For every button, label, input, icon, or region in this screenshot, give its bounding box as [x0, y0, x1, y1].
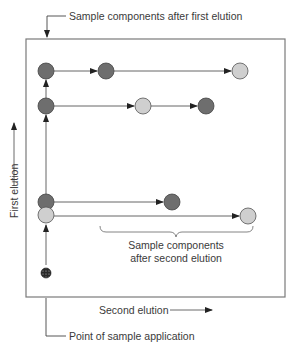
application-point: [41, 268, 51, 278]
bracket: [100, 226, 253, 237]
bracket-label-line1: Sample components: [106, 239, 246, 251]
top-callout-label: Sample components after first elution: [69, 10, 242, 22]
x-axis-label: Second elution: [99, 304, 168, 316]
second-elution-paths: [54, 71, 239, 216]
spot-dark: [38, 98, 54, 114]
spot-light: [135, 98, 151, 114]
spot-light: [240, 208, 256, 224]
bracket-label-line2: after second elution: [106, 252, 246, 264]
y-axis-label: First elution: [8, 164, 20, 218]
top-callout-leader: [44, 16, 66, 38]
diagram-canvas: [0, 0, 294, 350]
spot-dark: [198, 98, 214, 114]
spot-dark: [164, 194, 180, 210]
spot-dark: [98, 63, 114, 79]
spot-light: [38, 207, 54, 223]
spot-dark: [38, 63, 54, 79]
bottom-callout-label: Point of sample application: [69, 330, 195, 342]
bottom-callout-leader: [46, 298, 66, 336]
spot-light: [232, 63, 248, 79]
